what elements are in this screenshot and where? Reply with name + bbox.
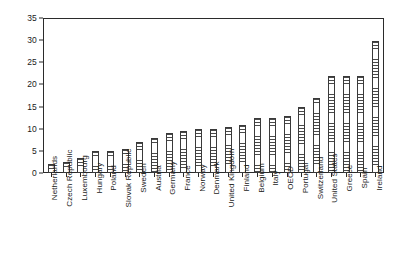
y-axis-tick-label: 25 [27, 57, 37, 67]
x-axis-label-slot: Norway [191, 178, 206, 273]
x-axis-label-slot: Austria [147, 178, 162, 273]
x-axis-label-slot: Czech Republic [59, 178, 74, 273]
x-axis-label-slot: Denmark [206, 178, 221, 273]
bar-chart: 05101520253035 NetherlandsCzech Republic… [0, 0, 404, 275]
x-axis-label-slot: Spain [353, 178, 368, 273]
x-axis-label-slot: Greece [339, 178, 354, 273]
y-axis-tick-label: 35 [27, 13, 37, 23]
x-axis-label-slot: OECD [280, 178, 295, 273]
y-axis-tick-label: 0 [32, 168, 37, 178]
bar [343, 76, 350, 173]
x-axis-label-slot: Germany [162, 178, 177, 273]
bar-slot [324, 19, 339, 173]
bar-slot [73, 19, 88, 173]
x-axis-label-slot: Ireland [368, 178, 383, 273]
bar-series [44, 19, 383, 173]
bar-slot [147, 19, 162, 173]
bar-slot [294, 19, 309, 173]
x-axis-labels: NetherlandsCzech RepublicLuxembourgHunga… [44, 178, 383, 273]
bar-slot [177, 19, 192, 173]
y-axis: 05101520253035 [0, 0, 43, 173]
bar-slot [353, 19, 368, 173]
bar-slot [103, 19, 118, 173]
x-axis-label-slot: United Kingdom [221, 178, 236, 273]
bar-slot [236, 19, 251, 173]
bar-slot [250, 19, 265, 173]
bar [357, 76, 364, 173]
bar-slot [162, 19, 177, 173]
y-axis-tick-label: 10 [27, 124, 37, 134]
bar [269, 118, 276, 173]
bar-slot [265, 19, 280, 173]
x-axis-label-slot: United States [324, 178, 339, 273]
x-axis-label-slot: Switzerland [309, 178, 324, 273]
y-axis-tick-label: 20 [27, 79, 37, 89]
x-axis-label-slot: Sweden [132, 178, 147, 273]
x-axis-label-slot: Hungary [88, 178, 103, 273]
x-axis-label-slot: Belgium [250, 178, 265, 273]
x-axis-label: Ireland [376, 165, 384, 190]
x-axis-label-slot: Netherlands [44, 178, 59, 273]
y-axis-tick-label: 5 [32, 146, 37, 156]
x-axis-label-slot: Slovak Republic [118, 178, 133, 273]
bar-slot [206, 19, 221, 173]
x-axis-label-slot: Portugal [294, 178, 309, 273]
y-axis-tick-label: 15 [27, 102, 37, 112]
bar-slot [280, 19, 295, 173]
y-axis-tick-label: 30 [27, 35, 37, 45]
x-axis-label-slot: Italy [265, 178, 280, 273]
bar-slot [309, 19, 324, 173]
bar [284, 116, 291, 173]
x-axis-label-slot: Poland [103, 178, 118, 273]
bar-slot [132, 19, 147, 173]
bar-slot [368, 19, 383, 173]
x-axis-label-slot: Finland [236, 178, 251, 273]
x-axis-label-slot: France [177, 178, 192, 273]
bar-slot [44, 19, 59, 173]
bar-slot [339, 19, 354, 173]
bar-slot [191, 19, 206, 173]
bar-slot [88, 19, 103, 173]
x-axis-label-slot: Luxembourg [73, 178, 88, 273]
bar [372, 41, 379, 173]
